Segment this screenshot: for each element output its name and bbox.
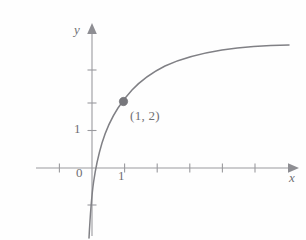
y-axis-arrowhead: [87, 23, 97, 34]
x-axis-label: x: [289, 170, 295, 186]
curve-path: [89, 45, 289, 238]
figure-canvas: y x 0 1 1 (1, 2): [0, 0, 306, 240]
x-tick-label-1: 1: [118, 168, 125, 184]
origin-label: 0: [76, 165, 83, 181]
point-annotation-label: (1, 2): [130, 108, 160, 124]
point-marker[interactable]: [119, 97, 127, 105]
y-axis-label: y: [74, 22, 80, 38]
y-tick-label-1: 1: [74, 121, 81, 137]
y-axis: [87, 23, 97, 236]
log-curve: [89, 45, 289, 238]
